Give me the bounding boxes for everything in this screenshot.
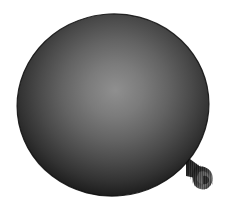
image-canvas: Dark gray inflated balloon on a white ba… xyxy=(0,0,230,215)
balloon-illustration xyxy=(0,0,230,215)
